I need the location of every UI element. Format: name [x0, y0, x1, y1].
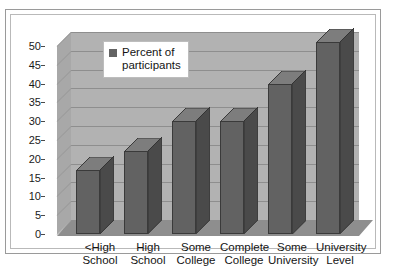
x-axis-tick-label: Some College [172, 241, 220, 267]
chart-inner-frame: 50454035302520151050 Percent of particip… [10, 14, 376, 249]
bar[interactable] [316, 42, 340, 234]
y-axis-tick-label: 10 [17, 191, 41, 202]
x-axis-tick-label: <High School [76, 241, 124, 267]
bar-front-face [316, 42, 340, 234]
legend-label-percent-of-participants: Percent of participants [122, 46, 181, 72]
y-axis: 50454035302520151050 [11, 32, 41, 238]
bar-front-face [172, 121, 196, 234]
y-axis-tick-label: 0 [17, 229, 41, 240]
y-axis-tick-label: 25 [17, 135, 41, 146]
bar-front-face [124, 151, 148, 234]
x-axis-tick-label: High School [124, 241, 172, 267]
y-axis-tick-label: 50 [17, 41, 41, 52]
y-axis-tick-label: 30 [17, 116, 41, 127]
bar-side-face [100, 156, 114, 234]
bar-side-face [340, 28, 354, 234]
y-axis-tick-label: 45 [17, 60, 41, 71]
chart-figure: 50454035302520151050 Percent of particip… [5, 9, 381, 254]
bar-side-face [292, 70, 306, 234]
x-axis-tick-label: Complete College [220, 241, 268, 267]
legend: Percent of participants [103, 41, 189, 78]
bar[interactable] [268, 84, 292, 234]
bar[interactable] [172, 121, 196, 234]
bar-front-face [268, 84, 292, 234]
bar-front-face [76, 170, 100, 234]
y-axis-tick-label: 35 [17, 97, 41, 108]
x-axis-tick-label: Some University [268, 241, 316, 267]
legend-swatch-percent-of-participants [109, 49, 117, 57]
bar-side-face [148, 137, 162, 234]
bar[interactable] [124, 151, 148, 234]
bar-side-face [244, 107, 258, 234]
y-axis-tick-label: 40 [17, 79, 41, 90]
x-axis: <High SchoolHigh SchoolSome CollegeCompl… [45, 241, 375, 270]
y-axis-tick-label: 20 [17, 154, 41, 165]
plot-area [45, 32, 375, 238]
bar-front-face [220, 121, 244, 234]
bar[interactable] [76, 170, 100, 234]
y-axis-tick-label: 5 [17, 210, 41, 221]
bar-side-face [196, 107, 210, 234]
x-axis-tick-label: University Level [316, 241, 364, 267]
bar[interactable] [220, 121, 244, 234]
y-axis-tick-label: 15 [17, 173, 41, 184]
